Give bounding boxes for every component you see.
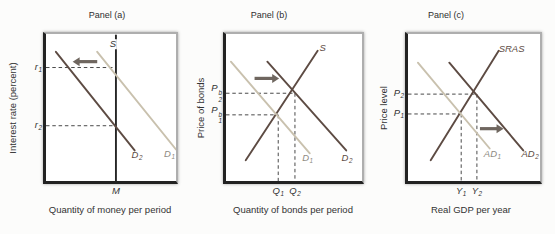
- sras-curve: [431, 51, 499, 161]
- sras-curve-label: SRAS: [499, 45, 525, 55]
- panel-c-plot-area: [405, 32, 542, 184]
- ad2-curve: [449, 63, 523, 151]
- x-value-label: Y1: [456, 186, 466, 197]
- figure-canvas: Panel (a) Interest rate (percent) Quanti…: [0, 0, 555, 234]
- ad1-curve: [418, 63, 490, 149]
- panel-c-x-axis-label: Real GDP per year: [431, 204, 511, 215]
- ad2-curve-label: AD2: [521, 150, 538, 161]
- x-value-label: Y2: [472, 186, 482, 197]
- y-value-label: P2: [394, 88, 404, 99]
- panel-c-y-axis-label: Price level: [378, 86, 389, 130]
- y-value-label: P1: [394, 108, 404, 119]
- panel-c-title: Panel (c): [428, 10, 464, 20]
- panel-c: Panel (c) Price level Real GDP per year …: [0, 0, 555, 234]
- plot-svg: [408, 34, 540, 181]
- ad1-curve-label: AD1: [484, 150, 501, 161]
